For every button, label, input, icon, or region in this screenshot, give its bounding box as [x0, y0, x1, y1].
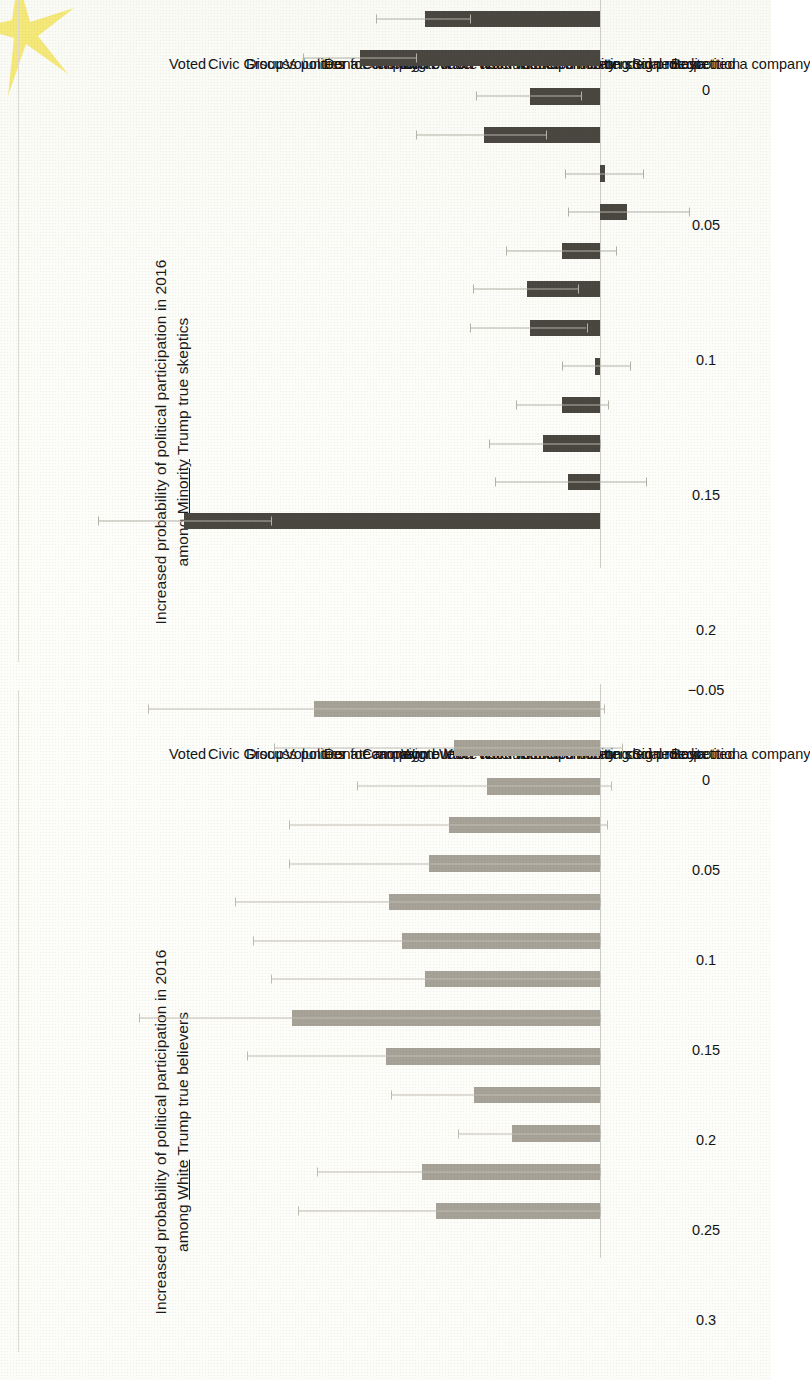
error-cap-upper: [568, 208, 569, 217]
error-cap-upper: [271, 975, 272, 984]
bar-group: [0, 435, 771, 451]
y-tick-label: 0.2: [696, 622, 716, 638]
error-cap-lower: [600, 1013, 601, 1022]
error-cap-lower: [578, 285, 579, 294]
y-tick-label: −0.05: [688, 682, 725, 698]
error-cap-lower: [581, 92, 582, 101]
error-bar: [516, 405, 608, 406]
bar-group: [0, 701, 771, 717]
error-cap-lower: [622, 743, 623, 752]
bar-group: [0, 778, 771, 794]
error-cap-lower: [604, 705, 605, 714]
error-cap-lower: [587, 323, 588, 332]
error-cap-upper: [458, 1129, 459, 1138]
bar-group: [0, 894, 771, 910]
error-bar: [565, 173, 643, 174]
error-cap-upper: [298, 1206, 299, 1215]
error-cap-lower: [608, 401, 609, 410]
error-bar: [357, 786, 611, 787]
error-bar: [98, 520, 271, 521]
error-cap-upper: [376, 15, 377, 24]
bar-group: [0, 474, 771, 490]
error-cap-lower: [646, 478, 647, 487]
error-cap-upper: [274, 743, 275, 752]
error-cap-upper: [506, 246, 507, 255]
error-cap-upper: [303, 53, 304, 62]
error-bar: [391, 1095, 600, 1096]
error-cap-lower: [600, 936, 601, 945]
bar-group: [0, 397, 771, 413]
error-cap-upper: [357, 782, 358, 791]
error-bar: [476, 96, 581, 97]
error-bar: [416, 135, 546, 136]
error-cap-lower: [616, 246, 617, 255]
bar-group: [0, 1125, 771, 1141]
error-cap-lower: [470, 15, 471, 24]
error-bar: [317, 1172, 600, 1173]
error-bar: [253, 940, 600, 941]
error-cap-upper: [317, 1168, 318, 1177]
error-cap-upper: [565, 169, 566, 178]
error-cap-upper: [470, 323, 471, 332]
bar-group: [0, 1010, 771, 1026]
error-cap-upper: [489, 439, 490, 448]
error-bar: [458, 1133, 600, 1134]
bar-group: [0, 1203, 771, 1219]
error-cap-upper: [289, 859, 290, 868]
error-cap-lower: [689, 208, 690, 217]
error-cap-upper: [516, 401, 517, 410]
bar-group: [0, 281, 771, 297]
error-bar: [506, 250, 617, 251]
error-bar: [303, 57, 416, 58]
error-cap-lower: [630, 362, 631, 371]
error-cap-lower: [416, 53, 417, 62]
error-bar: [148, 709, 603, 710]
plot-frame-top: Increased probability of political parti…: [0, 0, 771, 690]
bar-group: [0, 11, 771, 27]
error-bar: [376, 19, 471, 20]
error-cap-upper: [562, 362, 563, 371]
error-cap-upper: [495, 478, 496, 487]
error-bar: [298, 1210, 600, 1211]
error-bar: [235, 902, 600, 903]
bar-group: [0, 855, 771, 871]
error-bar: [489, 443, 600, 444]
error-cap-lower: [546, 131, 547, 140]
error-cap-lower: [600, 1052, 601, 1061]
error-cap-upper: [476, 92, 477, 101]
error-cap-upper: [253, 936, 254, 945]
error-bar: [274, 747, 621, 748]
bar-group: [0, 817, 771, 833]
error-cap-lower: [600, 1091, 601, 1100]
bar-group: [0, 1087, 771, 1103]
plot-frame-bottom: Increased probability of political parti…: [0, 690, 771, 1380]
error-bar: [289, 825, 608, 826]
error-bar: [139, 1017, 600, 1018]
error-cap-lower: [600, 439, 601, 448]
bar-group: [0, 127, 771, 143]
error-cap-lower: [600, 898, 601, 907]
error-cap-lower: [271, 516, 272, 525]
error-cap-lower: [643, 169, 644, 178]
error-cap-lower: [600, 975, 601, 984]
bar-group: [0, 513, 771, 529]
error-bar: [470, 327, 586, 328]
bar-group: [0, 1048, 771, 1064]
error-cap-lower: [607, 821, 608, 830]
bar-group: [0, 933, 771, 949]
error-cap-lower: [600, 1129, 601, 1138]
bar-group: [0, 243, 771, 259]
bar-group: [0, 204, 771, 220]
error-bar: [247, 1056, 600, 1057]
bar-group: [0, 358, 771, 374]
error-cap-lower: [611, 782, 612, 791]
error-cap-lower: [600, 859, 601, 868]
bar-group: [0, 971, 771, 987]
error-cap-upper: [391, 1091, 392, 1100]
error-bar: [568, 212, 690, 213]
error-bar: [271, 979, 600, 980]
category-label: Boycotted a company: [671, 746, 810, 762]
error-cap-lower: [600, 1168, 601, 1177]
error-bar: [473, 289, 578, 290]
